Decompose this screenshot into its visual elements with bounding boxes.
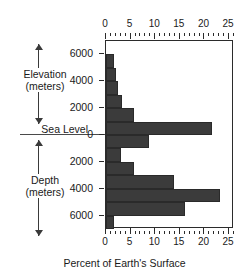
axis-tick-minor (184, 33, 185, 36)
axis-tick-minor (159, 33, 160, 36)
axis-tick-minor (125, 33, 126, 36)
x-axis-title: Percent of Earth's Surface (0, 257, 249, 269)
x-tick-label: 15 (168, 18, 190, 29)
axis-tick-minor (110, 231, 111, 234)
axis-tick-major (179, 228, 180, 234)
axis-tick-minor (213, 33, 214, 36)
axis-tick-minor (135, 231, 136, 234)
depth-arrow-head-down (35, 230, 43, 236)
axis-tick-minor (139, 231, 140, 234)
hypsometric-plot-area (105, 40, 233, 228)
axis-tick-minor (120, 231, 121, 234)
y-axis-tick (99, 161, 104, 162)
axis-tick-minor (199, 231, 200, 234)
axis-tick-minor (144, 231, 145, 234)
axis-tick-minor (115, 33, 116, 36)
y-tick-label: 6000 (53, 209, 93, 221)
histogram-bar (106, 122, 212, 135)
y-tick-label: 2000 (53, 101, 93, 113)
axis-tick-minor (194, 33, 195, 36)
axis-tick-major (130, 228, 131, 234)
axis-tick-major (179, 33, 180, 39)
axis-tick-major (203, 228, 204, 234)
histogram-bar (106, 135, 149, 148)
histogram-bar (106, 175, 174, 188)
axis-tick-minor (149, 231, 150, 234)
y-axis-tick (99, 107, 104, 108)
x-tick-label: 0 (94, 236, 116, 247)
x-tick-label: 10 (143, 236, 165, 247)
axis-tick-minor (144, 33, 145, 36)
y-tick-label: 0 (53, 128, 93, 140)
axis-tick-minor (174, 231, 175, 234)
x-tick-label: 20 (192, 18, 214, 29)
axis-tick-major (154, 33, 155, 39)
y-axis-tick (99, 53, 104, 54)
axis-tick-minor (110, 33, 111, 36)
axis-tick-minor (115, 231, 116, 234)
histogram-bar (106, 216, 114, 229)
y-tick-label: 4000 (53, 74, 93, 86)
histogram-bar (106, 162, 134, 175)
axis-tick-minor (213, 231, 214, 234)
axis-tick-minor (189, 231, 190, 234)
y-tick-label: 2000 (53, 155, 93, 167)
axis-tick-major (105, 228, 106, 234)
histogram-bar (106, 202, 185, 215)
axis-tick-minor (194, 231, 195, 234)
y-tick-label: 4000 (53, 182, 93, 194)
y-axis-tick (99, 188, 104, 189)
axis-tick-minor (174, 33, 175, 36)
axis-tick-major (228, 33, 229, 39)
axis-tick-minor (159, 231, 160, 234)
y-axis-tick (99, 215, 104, 216)
y-axis-tick (99, 80, 104, 81)
axis-tick-minor (208, 33, 209, 36)
axis-tick-minor (135, 33, 136, 36)
y-tick-label: 6000 (53, 47, 93, 59)
histogram-bar (106, 81, 118, 94)
depth-arrow-head-up (35, 140, 43, 146)
x-tick-label: 10 (143, 18, 165, 29)
y-axis-tick (99, 134, 104, 135)
axis-tick-minor (223, 33, 224, 36)
axis-tick-minor (169, 33, 170, 36)
elevation-arrow-head-up (35, 44, 43, 50)
axis-tick-major (105, 33, 106, 39)
histogram-bar (106, 189, 220, 202)
axis-tick-minor (233, 33, 234, 36)
axis-tick-minor (199, 33, 200, 36)
axis-tick-minor (139, 33, 140, 36)
top-axis-ticks (105, 33, 233, 39)
axis-tick-minor (223, 231, 224, 234)
axis-tick-minor (218, 231, 219, 234)
x-tick-label: 5 (119, 236, 141, 247)
axis-tick-minor (149, 33, 150, 36)
axis-tick-minor (184, 231, 185, 234)
axis-tick-major (154, 228, 155, 234)
axis-tick-minor (164, 33, 165, 36)
axis-tick-minor (120, 33, 121, 36)
axis-tick-minor (125, 231, 126, 234)
x-tick-label: 25 (217, 18, 239, 29)
axis-tick-minor (164, 231, 165, 234)
axis-tick-minor (169, 231, 170, 234)
axis-tick-minor (208, 231, 209, 234)
x-tick-label: 25 (217, 236, 239, 247)
axis-tick-minor (218, 33, 219, 36)
axis-tick-major (203, 33, 204, 39)
histogram-bar (106, 68, 116, 81)
x-tick-label: 5 (119, 18, 141, 29)
axis-tick-major (228, 228, 229, 234)
axis-tick-minor (189, 33, 190, 36)
histogram-bar (106, 148, 121, 161)
x-tick-label: 0 (94, 18, 116, 29)
histogram-bar (106, 54, 114, 67)
histogram-bar (106, 108, 134, 121)
bottom-axis-ticks (105, 228, 233, 234)
x-tick-label: 20 (192, 236, 214, 247)
axis-tick-major (130, 33, 131, 39)
axis-tick-minor (233, 231, 234, 234)
x-tick-label: 15 (168, 236, 190, 247)
histogram-bar (106, 95, 122, 108)
